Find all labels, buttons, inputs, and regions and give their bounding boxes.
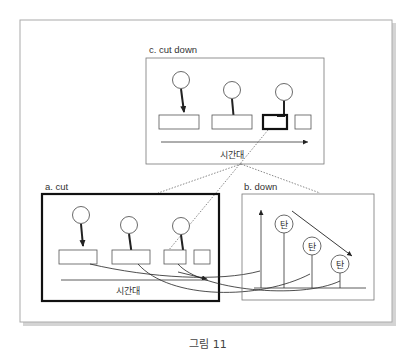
time-box bbox=[112, 250, 150, 264]
timeline-label: 시간대 bbox=[220, 150, 244, 160]
panel-a-title: a. cut bbox=[45, 181, 69, 192]
time-box bbox=[194, 250, 210, 264]
node-tan-2: 탄 bbox=[303, 237, 321, 255]
node-circle bbox=[173, 72, 190, 89]
time-box bbox=[59, 250, 97, 264]
panel-c-title: c. cut down bbox=[149, 44, 197, 55]
node-circle bbox=[224, 82, 241, 99]
time-box bbox=[212, 115, 252, 129]
node-circle bbox=[121, 217, 138, 234]
time-box bbox=[159, 115, 199, 129]
svg-text:탄: 탄 bbox=[280, 220, 288, 230]
time-box bbox=[164, 250, 186, 264]
node-tan-1: 탄 bbox=[275, 215, 293, 233]
timeline-label: 시간대 bbox=[116, 286, 140, 296]
node-tan-3: 탄 bbox=[331, 255, 349, 273]
node-circle bbox=[73, 207, 90, 224]
node-circle bbox=[276, 84, 293, 101]
node-circle bbox=[173, 218, 190, 235]
svg-text:탄: 탄 bbox=[308, 242, 316, 252]
figure-caption: 그림 11 bbox=[0, 335, 416, 351]
time-box bbox=[295, 115, 311, 129]
panel-b-title: b. down bbox=[244, 181, 277, 192]
svg-text:탄: 탄 bbox=[336, 260, 344, 270]
